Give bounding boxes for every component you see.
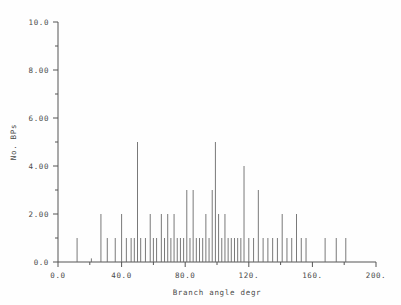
x-axis-title: Branch angle degr [173, 288, 262, 297]
x-tick-label: 200. [366, 271, 386, 280]
x-tick-label: 0.0 [50, 271, 65, 280]
y-tick-label: 4.00 [29, 162, 49, 171]
y-axis-title: No. BPs [9, 124, 18, 161]
x-tick-label: 120. [239, 271, 259, 280]
x-tick-label: 160. [302, 271, 322, 280]
x-tick-label: 40.0 [111, 271, 131, 280]
y-tick-label: 2.00 [29, 210, 49, 219]
y-tick-label: 6.00 [29, 114, 49, 123]
y-tick-label: 8.00 [29, 66, 49, 75]
x-tick-label: 80.0 [175, 271, 195, 280]
y-tick-label: 0.0 [34, 258, 49, 267]
spike-plot: 0.02.004.006.008.0010.00.040.080.0120.16… [0, 0, 401, 305]
y-tick-label: 10.0 [29, 18, 49, 27]
chart-figure: 0.02.004.006.008.0010.00.040.080.0120.16… [0, 0, 401, 305]
axis-lines [58, 22, 376, 262]
